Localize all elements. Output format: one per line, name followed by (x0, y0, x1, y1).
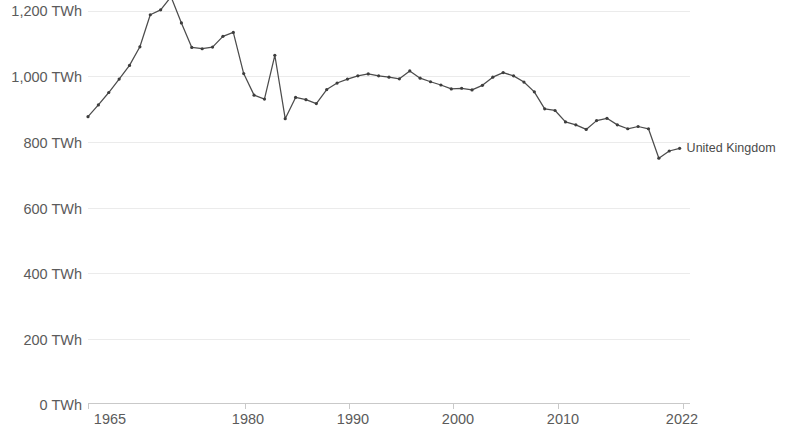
series-datapoint[interactable] (657, 157, 660, 160)
series-datapoint[interactable] (304, 98, 307, 101)
series-datapoint[interactable] (252, 94, 255, 97)
series-united-kingdom[interactable] (86, 0, 681, 160)
series-datapoint[interactable] (637, 125, 640, 128)
series-datapoint[interactable] (626, 127, 629, 130)
series-line-united-kingdom[interactable] (88, 0, 680, 158)
series-datapoint[interactable] (325, 88, 328, 91)
series-datapoints-united-kingdom[interactable] (86, 0, 681, 160)
series-datapoint[interactable] (387, 76, 390, 79)
series-datapoint[interactable] (553, 109, 556, 112)
series-datapoint[interactable] (356, 74, 359, 77)
x-tick-label-2000: 2000 (442, 411, 474, 427)
series-datapoint[interactable] (118, 78, 121, 81)
series-datapoint[interactable] (398, 77, 401, 80)
series-datapoint[interactable] (201, 47, 204, 50)
series-datapoint[interactable] (419, 77, 422, 80)
y-axis-labels: 1,200 TWh 1,000 TWh 800 TWh 600 TWh 400 … (11, 3, 82, 413)
series-datapoint[interactable] (149, 13, 152, 16)
y-tick-label-0: 0 TWh (40, 397, 82, 413)
series-datapoint[interactable] (564, 120, 567, 123)
series-datapoint[interactable] (128, 64, 131, 67)
y-tick-label-800: 800 TWh (23, 135, 82, 151)
series-datapoint[interactable] (284, 117, 287, 120)
series-datapoint[interactable] (408, 69, 411, 72)
x-axis-group (88, 404, 690, 410)
series-datapoint[interactable] (439, 83, 442, 86)
series-datapoint[interactable] (481, 84, 484, 87)
series-datapoint[interactable] (97, 103, 100, 106)
series-datapoint[interactable] (315, 102, 318, 105)
series-datapoint[interactable] (336, 81, 339, 84)
series-datapoint[interactable] (522, 80, 525, 83)
series-datapoint[interactable] (242, 72, 245, 75)
y-tick-label-1000: 1,000 TWh (11, 69, 82, 85)
series-datapoint[interactable] (647, 127, 650, 130)
series-datapoint[interactable] (367, 72, 370, 75)
series-datapoint[interactable] (377, 74, 380, 77)
series-datapoint[interactable] (294, 96, 297, 99)
series-datapoint[interactable] (263, 97, 266, 100)
series-datapoint[interactable] (221, 35, 224, 38)
x-tick-label-1990: 1990 (337, 411, 369, 427)
x-tick-label-2022: 2022 (666, 411, 698, 427)
series-datapoint[interactable] (543, 107, 546, 110)
series-datapoint[interactable] (138, 45, 141, 48)
series-datapoint[interactable] (460, 87, 463, 90)
series-datapoint[interactable] (450, 87, 453, 90)
series-datapoint[interactable] (159, 8, 162, 11)
series-datapoint[interactable] (574, 123, 577, 126)
series-datapoint[interactable] (429, 80, 432, 83)
series-datapoint[interactable] (273, 54, 276, 57)
x-tick-label-1965: 1965 (94, 411, 126, 427)
gridlines-group (88, 12, 690, 340)
y-tick-label-600: 600 TWh (23, 201, 82, 217)
series-datapoint[interactable] (512, 74, 515, 77)
y-tick-label-200: 200 TWh (23, 332, 82, 348)
series-datapoint[interactable] (107, 91, 110, 94)
series-datapoint[interactable] (678, 147, 681, 150)
x-tick-label-2010: 2010 (547, 411, 579, 427)
chart-canvas: 1,200 TWh 1,000 TWh 800 TWh 600 TWh 400 … (0, 0, 793, 428)
series-datapoint[interactable] (86, 115, 89, 118)
series-datapoint[interactable] (211, 46, 214, 49)
series-datapoint[interactable] (585, 128, 588, 131)
series-datapoint[interactable] (605, 117, 608, 120)
series-datapoint[interactable] (533, 90, 536, 93)
series-datapoint[interactable] (668, 149, 671, 152)
series-datapoint[interactable] (470, 88, 473, 91)
x-axis-labels: 1965 1980 1990 2000 2010 2022 (94, 411, 698, 427)
y-tick-label-400: 400 TWh (23, 266, 82, 282)
y-tick-label-1200: 1,200 TWh (11, 3, 82, 19)
series-datapoint[interactable] (190, 46, 193, 49)
x-tick-label-1980: 1980 (232, 411, 264, 427)
series-datapoint[interactable] (346, 78, 349, 81)
series-datapoint[interactable] (616, 123, 619, 126)
series-datapoint[interactable] (595, 119, 598, 122)
series-datapoint[interactable] (491, 76, 494, 79)
line-chart-figure: 1,200 TWh 1,000 TWh 800 TWh 600 TWh 400 … (0, 0, 793, 428)
series-end-label-united-kingdom[interactable]: United Kingdom (687, 141, 776, 155)
series-datapoint[interactable] (232, 31, 235, 34)
series-datapoint[interactable] (180, 21, 183, 24)
series-datapoint[interactable] (502, 71, 505, 74)
